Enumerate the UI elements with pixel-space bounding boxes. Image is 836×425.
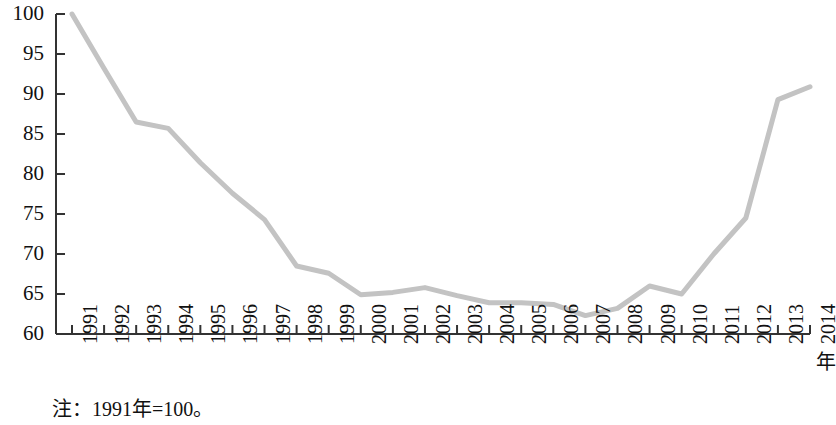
x-axis-tick-label: 1996 — [240, 304, 260, 344]
x-axis-tick-label: 2003 — [465, 304, 485, 344]
x-axis-tick-label: 1997 — [273, 304, 293, 344]
x-axis-tick-label: 1995 — [208, 304, 228, 344]
data-series-line — [72, 14, 810, 316]
y-axis-ticks — [56, 14, 65, 334]
x-axis-tick-label: 2005 — [529, 304, 549, 344]
y-axis-tick-label: 75 — [0, 203, 44, 224]
x-axis-tick-label: 2009 — [658, 304, 678, 344]
x-axis-tick-label: 2014 — [818, 304, 836, 344]
x-axis-tick-label: 1991 — [80, 304, 100, 344]
y-axis-tick-label: 90 — [0, 83, 44, 104]
x-axis-tick-label: 2011 — [722, 305, 742, 344]
x-axis-tick-label: 2004 — [497, 304, 517, 344]
x-axis-tick-label: 2007 — [593, 304, 613, 344]
x-axis-unit-label: 年 — [816, 352, 836, 372]
x-axis-tick-label: 2010 — [690, 304, 710, 344]
y-axis-tick-label: 60 — [0, 323, 44, 344]
y-axis-tick-label: 65 — [0, 283, 44, 304]
chart-plot-area — [0, 0, 836, 425]
x-axis-tick-label: 1998 — [305, 304, 325, 344]
x-axis-tick-label: 1994 — [176, 304, 196, 344]
y-axis-tick-label: 80 — [0, 163, 44, 184]
x-axis-tick-label: 2000 — [369, 304, 389, 344]
y-axis-tick-label: 70 — [0, 243, 44, 264]
y-axis-tick-label: 100 — [0, 3, 44, 24]
line-chart-figure: 6065707580859095100 19911992199319941995… — [0, 0, 836, 425]
x-axis-tick-label: 2013 — [786, 304, 806, 344]
y-axis-tick-label: 85 — [0, 123, 44, 144]
x-axis-tick-label: 1993 — [144, 304, 164, 344]
x-axis-tick-label: 2001 — [401, 304, 421, 344]
x-axis-tick-label: 1999 — [337, 304, 357, 344]
chart-axes — [56, 14, 810, 334]
x-axis-tick-label: 2006 — [561, 304, 581, 344]
chart-note: 注：1991年=100。 — [52, 398, 213, 420]
x-axis-tick-label: 2002 — [433, 304, 453, 344]
x-axis-tick-label: 2008 — [625, 304, 645, 344]
x-axis-tick-label: 1992 — [112, 304, 132, 344]
x-axis-tick-label: 2012 — [754, 304, 774, 344]
y-axis-tick-label: 95 — [0, 43, 44, 64]
